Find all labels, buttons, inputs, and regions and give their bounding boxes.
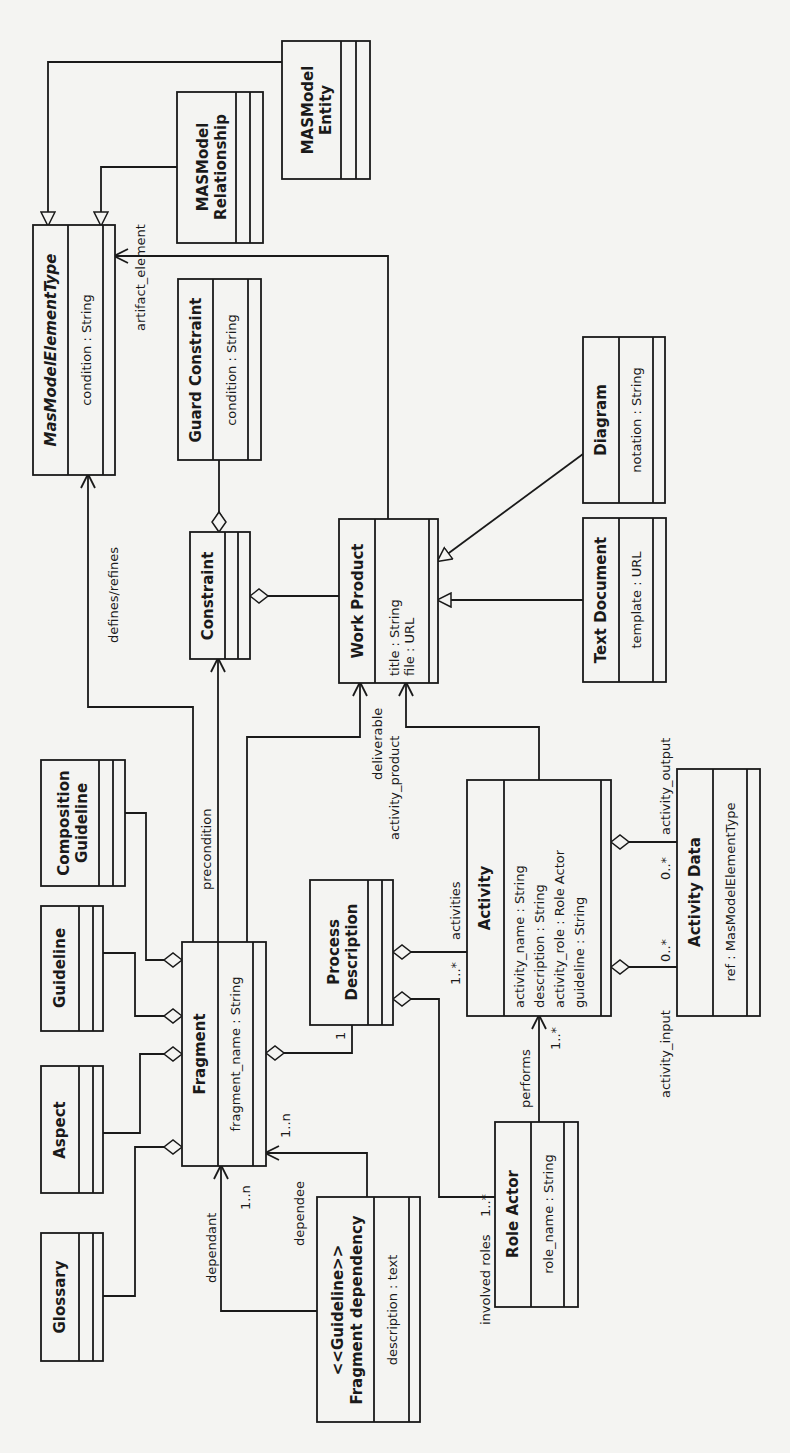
- class-attribute: template : URL: [629, 551, 644, 649]
- class-name: Diagram: [592, 384, 610, 456]
- class-attribute: condition : String: [224, 314, 239, 426]
- class-name: Aspect: [51, 1101, 69, 1159]
- class-attribute: role_name : String: [541, 1154, 556, 1273]
- class-name: Guideline: [73, 783, 91, 863]
- label-activity-input-multiplicity: 0..*: [658, 938, 673, 962]
- class-attribute: activity_name : String: [512, 865, 527, 1008]
- class-attribute: guideline : String: [572, 897, 587, 1008]
- label-artifact-element: artifact_element: [133, 224, 148, 331]
- class-name: Process: [325, 919, 343, 985]
- class-name: Description: [343, 903, 361, 1000]
- label-activity-input: activity_input: [658, 1010, 673, 1098]
- aggregation-diamond: [164, 1140, 182, 1154]
- label-activities: activities: [448, 881, 463, 940]
- class-name: Entity: [317, 85, 335, 135]
- class-name: Activity Data: [686, 837, 704, 947]
- aggregation-diamond: [164, 1009, 182, 1023]
- class-attribute: ref : MasModelElementType: [723, 803, 738, 982]
- class-name: Guard Constraint: [187, 297, 205, 442]
- generalization-relationship: [101, 167, 177, 225]
- class-attribute: condition : String: [79, 294, 94, 406]
- label-precondition: precondition: [199, 809, 214, 890]
- class-name: Relationship: [212, 114, 230, 220]
- aggregation-diamond: [164, 1047, 182, 1061]
- class-attribute: activity_role : Role Actor: [552, 849, 567, 1008]
- assoc-activity-product: [406, 683, 539, 780]
- aggregation-diamond: [164, 953, 182, 967]
- class-name: MASModel: [194, 123, 212, 212]
- class-stereotype: <<Guideline>>: [329, 1245, 347, 1375]
- assoc-dependee: [266, 1153, 367, 1197]
- label-involved-roles-multiplicity: 1..*: [478, 1193, 493, 1217]
- label-performs-multiplicity: 1..*: [548, 1026, 563, 1050]
- generalization-diagram: [438, 454, 583, 561]
- class-attribute: title : String: [387, 599, 402, 676]
- label-defines-refines: defines/refines: [106, 547, 121, 643]
- label-performs: performs: [518, 1049, 533, 1108]
- agg-composition-guideline: [125, 813, 182, 960]
- label-dependant: dependant: [204, 1213, 219, 1283]
- aggregation-diamond: [611, 835, 629, 849]
- class-attribute: description : text: [385, 1255, 400, 1366]
- class-name: Activity: [476, 865, 494, 930]
- label-activity-product: activity_product: [387, 736, 402, 840]
- class-name: Fragment dependency: [348, 1215, 366, 1404]
- class-name: Guideline: [51, 928, 69, 1008]
- agg-aspect: [103, 1054, 182, 1133]
- label-activities-multiplicity: 1..*: [448, 961, 463, 985]
- class-name: Text Document: [592, 537, 610, 663]
- aggregation-diamond: [266, 1046, 284, 1060]
- agg-involved-roles: [393, 999, 495, 1197]
- label-activity-output: activity_output: [658, 738, 673, 835]
- agg-glossary: [103, 1147, 182, 1296]
- class-name: Glossary: [51, 1260, 69, 1333]
- class-name: Role Actor: [504, 1170, 522, 1258]
- label-process-multiplicity: 1: [333, 1032, 348, 1040]
- aggregation-diamond: [611, 960, 629, 974]
- label-activity-output-multiplicity: 0..*: [658, 856, 673, 880]
- class-name: MASModel: [299, 66, 317, 155]
- label-dependee-multiplicity: 1..n: [278, 1113, 293, 1138]
- class-name: Constraint: [199, 552, 217, 641]
- label-dependant-multiplicity: 1..n: [238, 1185, 253, 1210]
- class-name: MasModelElementType: [42, 254, 60, 447]
- class-name: Composition: [55, 770, 73, 875]
- aggregation-diamond: [212, 512, 226, 532]
- uml-class-diagram: MasModelElementType condition : String M…: [0, 0, 790, 1453]
- class-attribute: file : URL: [402, 617, 417, 676]
- label-dependee: dependee: [292, 1181, 307, 1246]
- label-involved-roles: involved roles: [478, 1234, 493, 1325]
- label-deliverable: deliverable: [370, 708, 385, 780]
- class-attribute: notation : String: [629, 367, 644, 473]
- class-attribute: description : String: [532, 884, 547, 1008]
- aggregation-diamond: [393, 992, 411, 1006]
- aggregation-diamond: [393, 945, 411, 959]
- aggregation-diamond: [250, 589, 268, 603]
- class-attribute: fragment_name : String: [228, 977, 243, 1132]
- class-name: Work Product: [349, 543, 367, 658]
- class-name: Fragment: [191, 1013, 209, 1094]
